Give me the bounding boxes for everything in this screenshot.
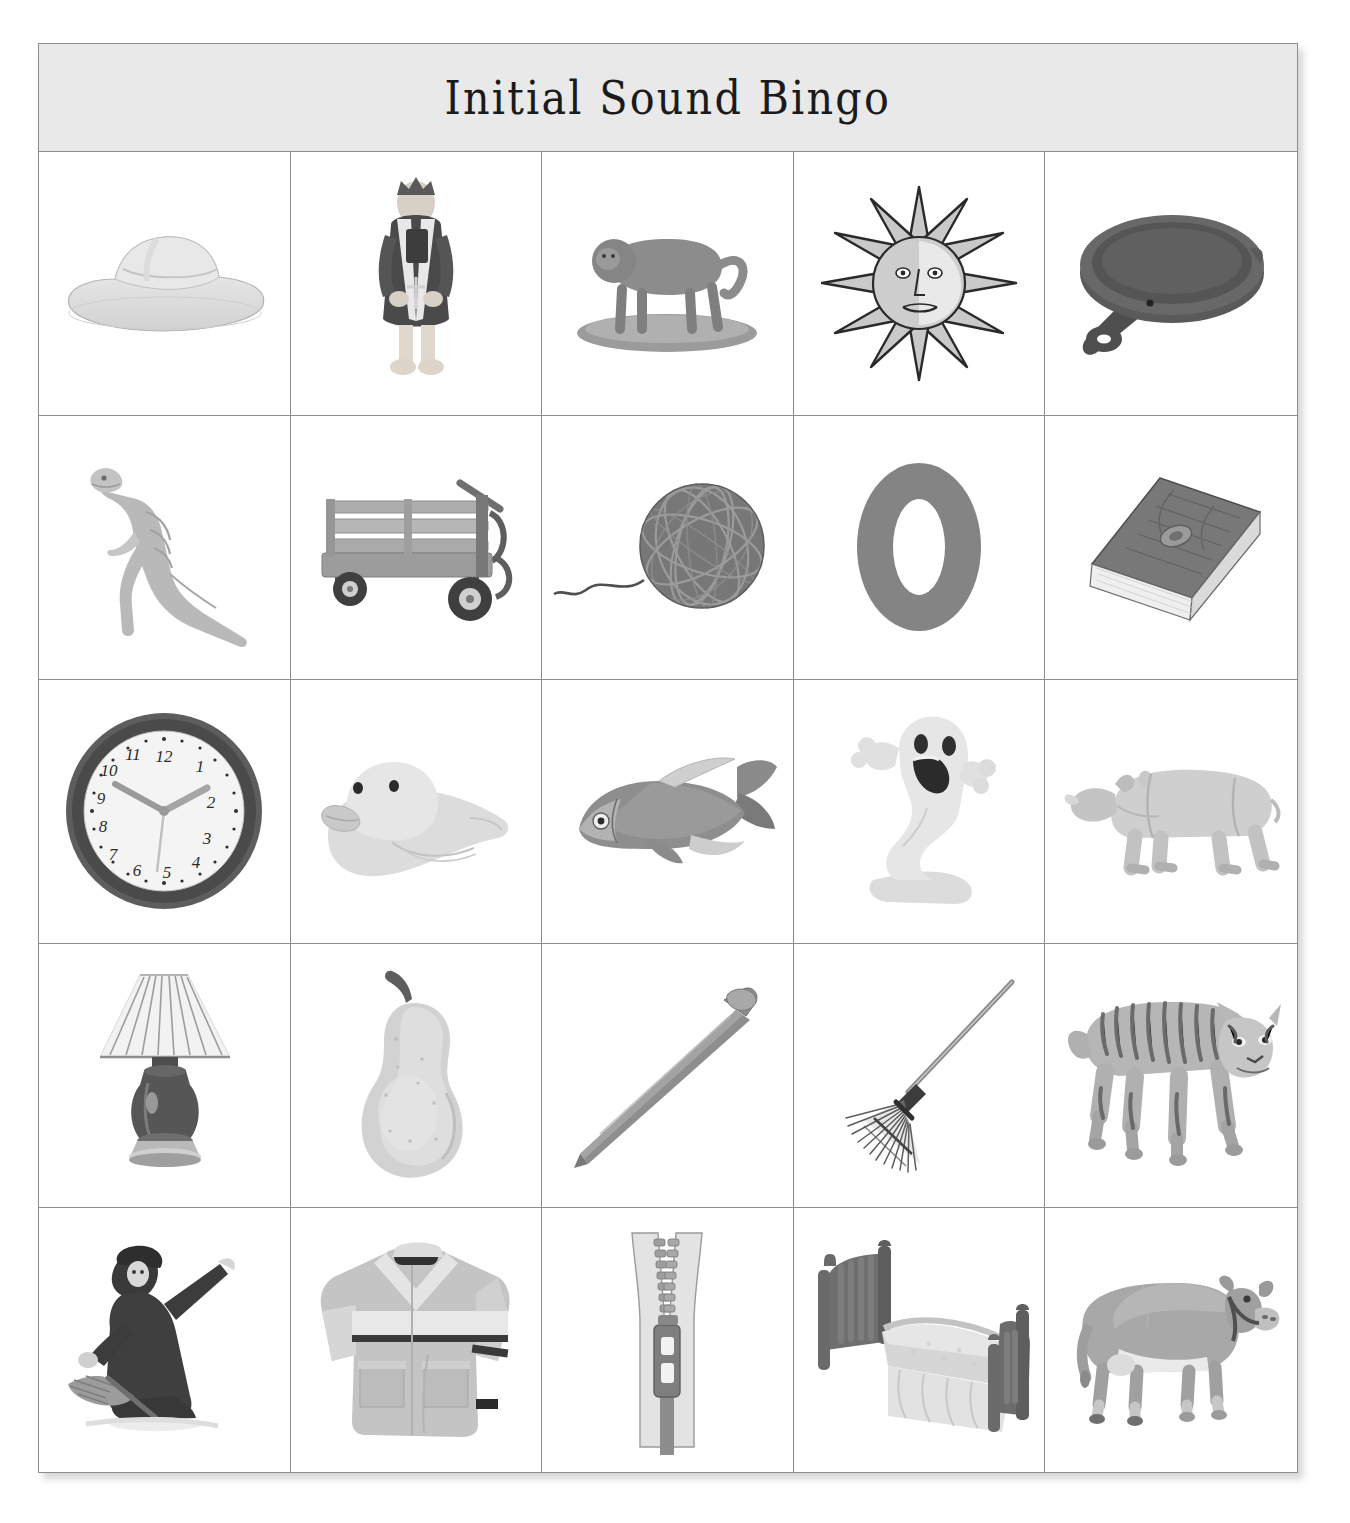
svg-text:5: 5 bbox=[163, 863, 172, 882]
bingo-cell-r3c1[interactable]: 12 1 2 3 4 5 6 7 8 9 10 11 bbox=[39, 680, 291, 944]
page-title: Initial Sound Bingo bbox=[445, 70, 892, 125]
pear-icon bbox=[291, 944, 542, 1207]
bingo-cell-r2c2[interactable]: wagon bbox=[291, 416, 543, 680]
bingo-cell-r1c2[interactable]: king bbox=[291, 152, 543, 416]
bingo-cell-r3c4[interactable]: ghost bbox=[794, 680, 1046, 944]
bingo-cell-r1c3[interactable]: baboon bbox=[542, 152, 794, 416]
svg-text:11: 11 bbox=[125, 745, 141, 764]
svg-text:9: 9 bbox=[97, 789, 106, 808]
cow-icon bbox=[1045, 1208, 1297, 1472]
svg-text:4: 4 bbox=[192, 853, 201, 872]
rake-icon bbox=[794, 944, 1045, 1207]
bingo-cell-r2c3[interactable]: yarn bbox=[542, 416, 794, 680]
king-icon bbox=[291, 152, 542, 415]
letter-o-icon bbox=[794, 416, 1045, 679]
svg-text:1: 1 bbox=[196, 757, 205, 776]
bingo-cell-r5c2[interactable]: jacket bbox=[291, 1208, 543, 1472]
tiger-icon bbox=[1045, 944, 1297, 1207]
bingo-cell-r4c5[interactable]: tiger bbox=[1045, 944, 1297, 1208]
nail-icon bbox=[542, 944, 793, 1207]
cowboy-hat-icon bbox=[39, 152, 290, 415]
bingo-cell-r2c1[interactable]: dinosaur bbox=[39, 416, 291, 680]
yarn-ball-icon bbox=[542, 416, 793, 679]
fish-icon bbox=[542, 680, 793, 943]
bingo-cell-r4c3[interactable]: nail bbox=[542, 944, 794, 1208]
bingo-cell-r5c3[interactable]: zipper bbox=[542, 1208, 794, 1472]
bingo-cell-r3c5[interactable]: rhinoceros bbox=[1045, 680, 1297, 944]
title-band: Initial Sound Bingo bbox=[39, 44, 1297, 152]
bingo-cell-r2c4[interactable]: O bbox=[794, 416, 1046, 680]
svg-text:12: 12 bbox=[155, 747, 173, 766]
bingo-cell-r1c1[interactable]: hat bbox=[39, 152, 291, 416]
svg-text:3: 3 bbox=[202, 829, 212, 848]
bingo-cell-r4c4[interactable]: rake bbox=[794, 944, 1046, 1208]
bingo-cell-r5c1[interactable]: witch bbox=[39, 1208, 291, 1472]
clock-icon: 12 1 2 3 4 5 6 7 8 9 10 11 bbox=[39, 680, 290, 943]
ghost-icon bbox=[794, 680, 1045, 943]
bingo-cell-r4c1[interactable]: lamp bbox=[39, 944, 291, 1208]
dinosaur-icon bbox=[39, 416, 290, 679]
lamp-icon bbox=[39, 944, 290, 1207]
bingo-cell-r1c5[interactable]: pan bbox=[1045, 152, 1297, 416]
wagon-icon bbox=[291, 416, 542, 679]
bingo-grid: hat bbox=[39, 152, 1297, 1472]
bingo-cell-r4c2[interactable]: pear bbox=[291, 944, 543, 1208]
svg-text:6: 6 bbox=[133, 861, 142, 880]
svg-text:8: 8 bbox=[99, 817, 108, 836]
witch-icon bbox=[39, 1208, 290, 1472]
bingo-cell-r1c4[interactable]: sun bbox=[794, 152, 1046, 416]
bingo-card: Initial Sound Bingo hat bbox=[38, 43, 1298, 1473]
worksheet-page: Initial Sound Bingo hat bbox=[0, 0, 1350, 1523]
svg-text:10: 10 bbox=[100, 761, 118, 780]
zipper-icon bbox=[542, 1208, 793, 1472]
bingo-cell-r3c3[interactable]: fish bbox=[542, 680, 794, 944]
duck-icon bbox=[291, 680, 542, 943]
bingo-cell-r3c2[interactable]: duck bbox=[291, 680, 543, 944]
bingo-cell-r2c5[interactable]: book bbox=[1045, 416, 1297, 680]
jacket-icon bbox=[291, 1208, 542, 1472]
frying-pan-icon bbox=[1045, 152, 1297, 415]
svg-text:2: 2 bbox=[207, 793, 216, 812]
baboon-icon bbox=[542, 152, 793, 415]
bingo-cell-r5c4[interactable]: bed bbox=[794, 1208, 1046, 1472]
book-icon bbox=[1045, 416, 1297, 679]
bed-icon bbox=[794, 1208, 1045, 1472]
bingo-cell-r5c5[interactable]: cow bbox=[1045, 1208, 1297, 1472]
rhinoceros-icon bbox=[1045, 680, 1297, 943]
sun-icon bbox=[794, 152, 1045, 415]
